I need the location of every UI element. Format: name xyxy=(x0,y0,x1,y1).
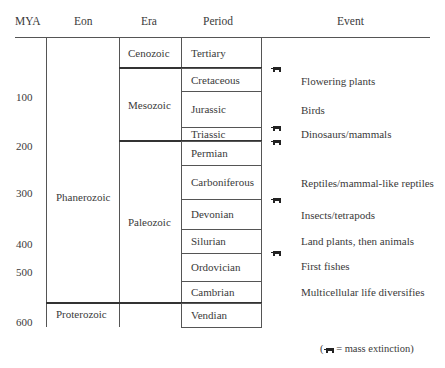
mya-tick: 600 xyxy=(16,316,33,328)
period-boundary xyxy=(181,327,262,328)
header-era: Era xyxy=(141,15,157,27)
period-left-line xyxy=(181,37,182,327)
mass-extinction-icon xyxy=(271,140,281,145)
mass-extinction-icon xyxy=(271,251,281,256)
event-label: Dinosaurs/mammals xyxy=(301,128,391,140)
mass-extinction-icon xyxy=(271,198,281,203)
eon-cell: Proterozoic xyxy=(56,307,107,321)
mass-extinction-icon xyxy=(271,67,281,72)
period-cell: Silurian xyxy=(191,229,226,253)
period-cell: Vendian xyxy=(191,303,227,327)
mass-extinction-icon xyxy=(271,126,281,131)
header-eon: Eon xyxy=(74,15,93,27)
period-cell: Tertiary xyxy=(191,37,226,68)
header-mya: MYA xyxy=(15,15,41,27)
period-cell: Ordovician xyxy=(191,253,240,281)
era-cell: Cenozoic xyxy=(128,37,170,68)
eon-left-line xyxy=(46,37,47,327)
mya-tick: 100 xyxy=(16,91,33,103)
mya-tick: 500 xyxy=(16,266,33,278)
era-cell: Mesozoic xyxy=(128,68,171,141)
mya-tick: 400 xyxy=(16,238,33,250)
extinction-legend-icon xyxy=(324,344,334,355)
event-label: Flowering plants xyxy=(301,75,375,87)
period-right-line xyxy=(261,37,262,327)
period-cell: Devonian xyxy=(191,199,234,229)
era-left-line xyxy=(119,37,120,327)
event-label: Reptiles/mammal-like reptiles xyxy=(301,177,434,189)
period-cell: Cretaceous xyxy=(191,68,240,91)
eon-cell: Phanerozoic xyxy=(56,190,110,204)
period-cell: Carboniferous xyxy=(191,165,254,199)
era-cell: Paleozoic xyxy=(128,141,171,303)
event-label: Multicellular life diversifies xyxy=(301,286,424,298)
period-cell: Jurassic xyxy=(191,91,226,127)
mya-tick: 200 xyxy=(16,140,33,152)
event-label: Insects/tetrapods xyxy=(301,209,375,221)
period-cell: Triassic xyxy=(191,127,225,141)
header-event: Event xyxy=(337,15,364,27)
period-cell: Permian xyxy=(191,141,228,165)
period-cell: Cambrian xyxy=(191,281,234,303)
event-label: Birds xyxy=(301,104,325,116)
header-period: Period xyxy=(203,15,233,27)
legend: ( = mass extinction) xyxy=(320,343,414,355)
mya-tick: 300 xyxy=(16,187,33,199)
legend-text: = mass extinction) xyxy=(336,343,414,354)
event-label: Land plants, then animals xyxy=(301,235,414,247)
event-label: First fishes xyxy=(301,260,350,272)
